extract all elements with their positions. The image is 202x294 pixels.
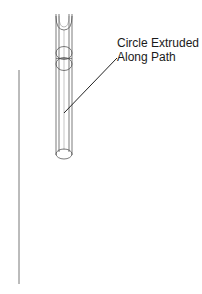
callout-label-line-2: Along Path xyxy=(117,50,199,64)
tube-top-arc xyxy=(56,16,72,30)
tube xyxy=(56,14,72,159)
tube-top-arc-inner xyxy=(59,16,69,27)
callout-label-line-1: Circle Extruded xyxy=(117,36,199,50)
callout-label: Circle Extruded Along Path xyxy=(117,36,199,64)
tube-bottom-cap xyxy=(56,149,72,159)
